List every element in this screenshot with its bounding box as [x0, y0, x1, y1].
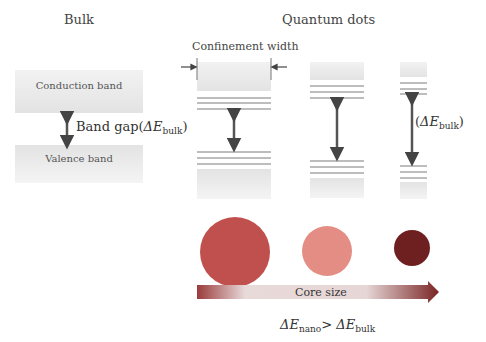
quantum-dot-band-diagram: Bulk Conduction band Valence band Band g…: [0, 0, 486, 342]
large-core-circle: [200, 217, 270, 287]
small-core-circle: [394, 230, 430, 266]
core-size-label: Core size: [295, 286, 347, 299]
diagram-graphics: [0, 0, 486, 342]
medium-core-circle: [302, 226, 352, 276]
energy-relation: ΔEnano> ΔEbulk: [280, 317, 375, 334]
